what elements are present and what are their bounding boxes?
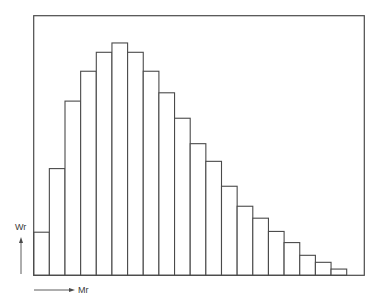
histogram-bar (331, 269, 347, 275)
histogram-bar (222, 186, 238, 275)
y-axis-label: Wr (15, 222, 26, 232)
histogram-bars (34, 43, 347, 275)
y-axis-arrow-icon (19, 237, 23, 274)
histogram-bar (96, 52, 112, 275)
histogram-bar (175, 118, 191, 275)
histogram-bar (128, 52, 144, 275)
x-axis-label: Mr (78, 285, 89, 295)
histogram-bar (253, 218, 269, 275)
histogram-bar (112, 43, 128, 275)
histogram-bar (81, 71, 97, 275)
histogram-bar (300, 255, 316, 275)
histogram-bar (34, 232, 50, 275)
histogram-bar (237, 206, 253, 275)
histogram-bar (190, 144, 206, 276)
histogram-bar (268, 231, 284, 275)
histogram-bar (315, 262, 331, 275)
histogram-bar (206, 161, 222, 275)
histogram-chart (0, 0, 376, 305)
x-axis-arrow-icon (34, 288, 75, 292)
histogram-bar (284, 243, 300, 276)
histogram-bar (159, 93, 175, 275)
histogram-bar (143, 71, 159, 275)
histogram-bar (49, 169, 65, 276)
histogram-bar (65, 101, 81, 275)
